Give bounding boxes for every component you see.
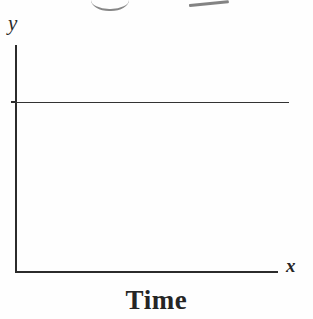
series-line-constant-level: [15, 102, 289, 104]
top-slash-stroke-artifact-icon: [189, 1, 229, 8]
x-axis-caption-label: Time: [0, 286, 313, 314]
x-axis-symbol-label: x: [286, 256, 296, 275]
y-axis-line: [15, 45, 17, 273]
chart-figure: y x Time: [0, 0, 313, 319]
top-curve-stroke-artifact-icon: [91, 0, 129, 11]
x-axis-line: [15, 271, 278, 273]
y-axis-symbol-label: y: [8, 13, 17, 34]
